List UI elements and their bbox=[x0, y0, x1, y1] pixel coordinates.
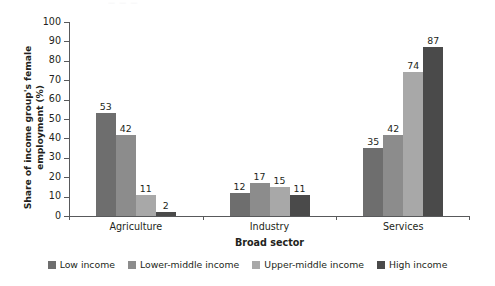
bar: 11 bbox=[136, 195, 156, 216]
bar-value-label: 17 bbox=[254, 171, 266, 182]
bar: 2 bbox=[156, 212, 176, 216]
y-tick: 50 bbox=[64, 119, 69, 120]
x-group-label: Industry bbox=[250, 221, 289, 233]
bar: 53 bbox=[96, 113, 116, 216]
x-axis-title: Broad sector bbox=[69, 237, 470, 249]
y-tick: 60 bbox=[64, 100, 69, 101]
bar-value-label: 11 bbox=[140, 183, 152, 194]
bar: 15 bbox=[270, 187, 290, 216]
bar: 74 bbox=[403, 72, 423, 216]
bar-value-label: 42 bbox=[387, 123, 399, 134]
bar: 12 bbox=[230, 193, 250, 216]
bar: 42 bbox=[383, 135, 403, 216]
y-tick: 90 bbox=[64, 41, 69, 42]
x-group-label: Agriculture bbox=[109, 221, 162, 233]
x-tick bbox=[69, 216, 70, 220]
x-tick bbox=[203, 216, 204, 220]
bar-value-label: 35 bbox=[367, 136, 379, 147]
y-tick-label: 40 bbox=[49, 132, 61, 144]
y-tick-label: 80 bbox=[49, 54, 61, 66]
y-tick: 30 bbox=[64, 158, 69, 159]
y-tick: 10 bbox=[64, 197, 69, 198]
legend-swatch-icon bbox=[128, 261, 136, 269]
y-axis-line bbox=[69, 22, 70, 216]
bar-value-label: 2 bbox=[163, 200, 169, 211]
legend-label: Lower-middle income bbox=[140, 259, 239, 270]
y-tick: 80 bbox=[64, 61, 69, 62]
bar: 35 bbox=[363, 148, 383, 216]
legend-swatch-icon bbox=[252, 261, 260, 269]
chart-legend: Low incomeLower-middle incomeUpper-middl… bbox=[0, 259, 495, 270]
y-tick-label: 30 bbox=[49, 151, 61, 163]
bar: 17 bbox=[250, 183, 270, 216]
x-tick bbox=[469, 216, 470, 220]
y-tick-label: 60 bbox=[49, 93, 61, 105]
y-tick-label: 0 bbox=[55, 210, 61, 222]
legend-item[interactable]: High income bbox=[377, 259, 447, 270]
legend-label: Upper-middle income bbox=[264, 259, 364, 270]
bar: 87 bbox=[423, 47, 443, 216]
y-axis-title: Share of income group's female employmen… bbox=[22, 28, 45, 228]
y-tick-label: 20 bbox=[49, 171, 61, 183]
bar-value-label: 74 bbox=[407, 60, 419, 71]
cropped-title-remnant: — — — bbox=[108, 1, 154, 6]
bar-value-label: 87 bbox=[427, 35, 439, 46]
legend-item[interactable]: Upper-middle income bbox=[252, 259, 364, 270]
chart-figure: — — — Share of income group's female emp… bbox=[0, 0, 495, 286]
y-tick-label: 70 bbox=[49, 74, 61, 86]
y-tick: 20 bbox=[64, 177, 69, 178]
bar-value-label: 12 bbox=[234, 181, 246, 192]
y-tick-label: 10 bbox=[49, 190, 61, 202]
bar-value-label: 53 bbox=[100, 101, 112, 112]
x-group-label: Services bbox=[383, 221, 423, 233]
x-tick bbox=[336, 216, 337, 220]
y-tick: 40 bbox=[64, 138, 69, 139]
plot-area: 0102030405060708090100 53421121217151135… bbox=[69, 22, 470, 216]
legend-swatch-icon bbox=[377, 261, 385, 269]
legend-item[interactable]: Low income bbox=[48, 259, 115, 270]
bar-value-label: 42 bbox=[120, 123, 132, 134]
bar-value-label: 15 bbox=[274, 175, 286, 186]
legend-label: Low income bbox=[60, 259, 115, 270]
y-tick-label: 50 bbox=[49, 113, 61, 125]
legend-swatch-icon bbox=[48, 261, 56, 269]
bar-value-label: 11 bbox=[294, 183, 306, 194]
bar: 42 bbox=[116, 135, 136, 216]
y-tick-label: 100 bbox=[43, 16, 61, 28]
y-tick: 70 bbox=[64, 80, 69, 81]
x-axis-line bbox=[69, 216, 470, 217]
legend-label: High income bbox=[389, 259, 447, 270]
bar: 11 bbox=[290, 195, 310, 216]
legend-item[interactable]: Lower-middle income bbox=[128, 259, 239, 270]
y-tick-label: 90 bbox=[49, 35, 61, 47]
y-tick: 100 bbox=[64, 22, 69, 23]
